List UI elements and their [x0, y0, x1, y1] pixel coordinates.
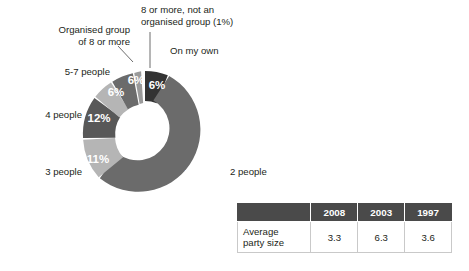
donut-chart: 6% 57% 11% 12% 6% 6% Organised group of … — [0, 0, 290, 215]
label-on-my-own: On my own — [170, 45, 250, 57]
slice-value-5-7-people: 6% — [108, 86, 125, 98]
table-corner-cell — [238, 204, 311, 222]
table-column-header-2003: 2003 — [358, 204, 405, 222]
label-eight-or-more-not-organised: 8 or more, not an organised group (1%) — [141, 4, 253, 27]
average-party-size-table: 2008 2003 1997 Average party size 3.3 6.… — [237, 203, 452, 253]
table-cell-2008: 3.3 — [311, 222, 358, 253]
label-organised-group: Organised group of 8 or more — [22, 24, 130, 47]
table-body: Average party size 3.3 6.3 3.6 — [238, 222, 452, 253]
table-column-header-2008: 2008 — [311, 204, 358, 222]
slice-value-on-my-own: 6% — [149, 79, 166, 91]
table-cell-1997: 3.6 — [405, 222, 452, 253]
slice-value-organised-group: 6% — [128, 74, 145, 86]
table-cell-2003: 6.3 — [358, 222, 405, 253]
label-2-people: 2 people — [230, 166, 300, 178]
table-row: Average party size 3.3 6.3 3.6 — [238, 222, 452, 253]
table-header: 2008 2003 1997 — [238, 204, 452, 222]
label-3-people: 3 people — [20, 166, 82, 178]
slice-value-2-people: 57% — [184, 168, 207, 180]
slice-value-4-people: 12% — [87, 112, 110, 124]
table-header-row: 2008 2003 1997 — [238, 204, 452, 222]
table-row-label-average-party-size: Average party size — [238, 222, 311, 253]
leader-line-organised-group — [118, 46, 133, 62]
table-column-header-1997: 1997 — [405, 204, 452, 222]
label-5-7-people: 5-7 people — [36, 66, 110, 78]
label-4-people: 4 people — [20, 109, 82, 121]
chart-page: 6% 57% 11% 12% 6% 6% Organised group of … — [0, 0, 469, 271]
donut-slices — [83, 71, 200, 192]
slice-value-3-people: 11% — [87, 153, 109, 165]
